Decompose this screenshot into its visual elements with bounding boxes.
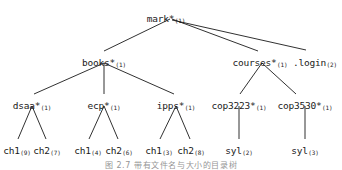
node-label: mark* xyxy=(147,13,175,24)
tree-node-books: books*(1) xyxy=(82,58,126,68)
tree-node-ecp: ecp*(1) xyxy=(87,101,120,111)
node-size-subscript: (3) xyxy=(162,149,173,156)
figure-caption: 图 2.7 带有文件名与大小的目录树 xyxy=(0,159,342,170)
node-label: ch1 xyxy=(74,145,91,156)
tree-node-cop3223: cop3223*(1) xyxy=(211,101,266,111)
tree-node-ipps_ch1: ch1(3) xyxy=(145,146,173,156)
node-label: ecp* xyxy=(87,100,109,111)
node-size-subscript: (1) xyxy=(184,104,195,111)
node-size-subscript: (2) xyxy=(242,149,253,156)
node-size-subscript: (7) xyxy=(50,149,61,156)
node-size-subscript: (1) xyxy=(256,104,267,111)
node-label: ch2 xyxy=(177,145,194,156)
node-size-subscript: (1) xyxy=(40,104,51,111)
tree-node-dsaa: dsaa*(1) xyxy=(13,101,52,111)
node-size-subscript: (1) xyxy=(322,104,333,111)
node-size-subscript: (1) xyxy=(110,104,121,111)
node-size-subscript: (4) xyxy=(91,149,102,156)
node-size-subscript: (8) xyxy=(194,149,205,156)
directory-tree-figure: mark*(1)books*(1)courses*(1).login(2)dsa… xyxy=(0,0,342,170)
tree-node-syl_3530: syl(3) xyxy=(291,146,319,156)
node-label: syl xyxy=(225,145,242,156)
node-label: cop3530* xyxy=(277,100,321,111)
tree-node-syl_3223: syl(2) xyxy=(225,146,253,156)
tree-node-dsaa_ch1: ch1(9) xyxy=(3,146,31,156)
node-label: cop3223* xyxy=(211,100,255,111)
node-label: ch2 xyxy=(105,145,122,156)
tree-node-ipps: ipps*(1) xyxy=(157,101,196,111)
node-size-subscript: (1) xyxy=(277,61,288,68)
node-label: .login xyxy=(293,57,326,68)
node-label: ipps* xyxy=(157,100,185,111)
node-label: ch2 xyxy=(33,145,50,156)
node-label: dsaa* xyxy=(13,100,41,111)
tree-node-courses: courses*(1) xyxy=(232,58,287,68)
node-label: ch1 xyxy=(3,145,20,156)
node-size-subscript: (1) xyxy=(174,17,185,24)
node-size-subscript: (6) xyxy=(122,149,133,156)
tree-node-ecp_ch2: ch2(6) xyxy=(105,146,133,156)
tree-node-ipps_ch2: ch2(8) xyxy=(177,146,205,156)
node-size-subscript: (1) xyxy=(115,61,126,68)
tree-node-cop3530: cop3530*(1) xyxy=(277,101,332,111)
node-label: ch1 xyxy=(145,145,162,156)
node-size-subscript: (3) xyxy=(308,149,319,156)
node-label: courses* xyxy=(232,57,276,68)
tree-node-ecp_ch1: ch1(4) xyxy=(74,146,102,156)
tree-edge-mark-to-login xyxy=(172,20,306,50)
node-size-subscript: (9) xyxy=(20,149,31,156)
tree-node-mark: mark*(1) xyxy=(147,14,186,24)
tree-node-login: .login(2) xyxy=(293,58,337,68)
tree-node-dsaa_ch2: ch2(7) xyxy=(33,146,61,156)
node-size-subscript: (2) xyxy=(326,61,337,68)
node-label: syl xyxy=(291,145,308,156)
node-label: books* xyxy=(82,57,115,68)
